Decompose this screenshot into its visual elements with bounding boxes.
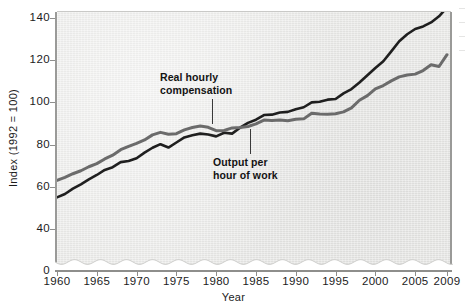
x-axis-line [55, 270, 452, 272]
x-tick-mark-1985 [256, 272, 257, 276]
chart-figure: 0406080100120140 Index (1992 = 100) 1960… [0, 0, 467, 306]
y-tick-mark-40 [50, 229, 55, 230]
annotation-output-per-hour: Output per hour of work [213, 156, 278, 182]
x-tick-mark-2005 [415, 272, 416, 276]
scan-artifact-2 [459, 22, 465, 23]
x-tick-mark-1965 [97, 272, 98, 276]
x-tick-label-2009: 2009 [425, 275, 467, 287]
plot-area [57, 12, 451, 271]
annotation-oph-line1: Output per [213, 156, 278, 169]
scan-artifact-3 [459, 36, 465, 37]
x-tick-label-1965: 1965 [75, 275, 119, 287]
plot-border-right [450, 12, 452, 271]
annotation-oph-leader-line [250, 129, 251, 154]
plot-border-top [57, 11, 451, 12]
annotation-rhc-line1: Real hourly [160, 71, 232, 84]
annotation-real-hourly-compensation: Real hourly compensation [160, 71, 232, 97]
y-tick-mark-60 [50, 187, 55, 188]
annotation-oph-line2: hour of work [213, 169, 278, 182]
series-lines [57, 12, 451, 271]
x-tick-mark-1980 [216, 272, 217, 276]
y-tick-mark-120 [50, 60, 55, 61]
x-tick-label-2000: 2000 [353, 275, 397, 287]
y-tick-label-40: 40 [6, 222, 50, 234]
scan-artifact-1 [459, 8, 465, 9]
scan-artifact-4 [459, 50, 465, 51]
x-tick-mark-1960 [57, 272, 58, 276]
x-tick-label-1975: 1975 [154, 275, 198, 287]
y-tick-mark-80 [50, 145, 55, 146]
y-tick-label-140: 140 [6, 11, 50, 23]
x-tick-label-1960: 1960 [35, 275, 79, 287]
x-tick-label-1980: 1980 [194, 275, 238, 287]
x-axis-label: Year [0, 291, 467, 303]
x-tick-mark-1995 [336, 272, 337, 276]
x-tick-mark-1970 [137, 272, 138, 276]
x-tick-label-1990: 1990 [274, 275, 318, 287]
y-tick-mark-100 [50, 102, 55, 103]
x-tick-mark-2000 [375, 272, 376, 276]
plot-border-left [55, 12, 57, 271]
x-tick-label-1970: 1970 [115, 275, 159, 287]
x-tick-mark-1975 [176, 272, 177, 276]
annotation-rhc-leader-line [212, 99, 213, 124]
x-tick-label-1995: 1995 [314, 275, 358, 287]
y-tick-mark-140 [50, 18, 55, 19]
x-tick-mark-2009 [447, 272, 448, 276]
y-axis-label: Index (1992 = 100) [7, 63, 19, 213]
x-tick-label-1985: 1985 [234, 275, 278, 287]
x-tick-mark-1990 [296, 272, 297, 276]
annotation-rhc-line2: compensation [160, 84, 232, 97]
